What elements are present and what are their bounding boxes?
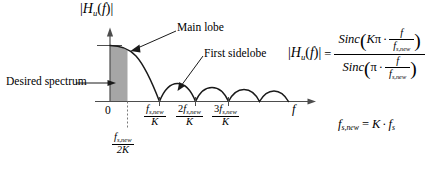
transfer-function-denominator: Sinc(π·ffs,new) bbox=[334, 54, 424, 81]
desired-spectrum-label: Desired spectrum bbox=[6, 76, 87, 88]
sampling-rate-equation: fs,new=K·fs bbox=[338, 118, 395, 132]
x-axis-label: f bbox=[292, 103, 295, 116]
x-tick-label-1-denominator: K bbox=[144, 116, 166, 128]
y-axis-label: |Hu(f)| bbox=[80, 2, 113, 17]
x-tick-label-3: 3fs,new K bbox=[212, 104, 239, 127]
main-lobe-arrowhead bbox=[131, 45, 141, 53]
x-tick-label-2: 2fs,new K bbox=[176, 104, 203, 127]
transfer-function-numerator: Sinc(Kπ·ffs,new) bbox=[334, 28, 424, 54]
y-axis-abs-close: | bbox=[111, 1, 114, 16]
cutoff-frequency-label: fs,new 2K bbox=[112, 132, 134, 155]
x-tick-label-2-denominator: K bbox=[176, 116, 203, 128]
y-axis-arrowhead bbox=[107, 28, 113, 37]
transfer-function-equals: = bbox=[324, 48, 331, 61]
transfer-function-equation: |Hu(f)| = Sinc(Kπ·ffs,new) Sinc(π·ffs,ne… bbox=[288, 28, 425, 80]
filter-magnitude-response-figure: |Hu(f)| Main lobe First sidelobe Desired… bbox=[0, 0, 435, 178]
transfer-function-lhs: |Hu(f)| bbox=[288, 46, 321, 61]
x-tick-label-3-denominator: K bbox=[212, 116, 239, 128]
main-lobe-leader-line bbox=[137, 31, 177, 49]
sampling-rate-rhs-subscript: s bbox=[392, 123, 395, 132]
first-sidelobe-leader-line bbox=[181, 56, 203, 86]
sampling-rate-dot: · bbox=[380, 117, 388, 131]
desired-spectrum-shaded-region bbox=[110, 46, 128, 102]
x-axis-arrowhead bbox=[308, 99, 317, 105]
cutoff-label-denominator: 2K bbox=[112, 144, 134, 156]
sampling-rate-lhs-subscript: s,new bbox=[341, 123, 358, 132]
x-tick-label-2-numerator: 2fs,new bbox=[176, 104, 203, 116]
first-sidelobe-label: First sidelobe bbox=[204, 48, 266, 60]
x-tick-label-1: fs,new K bbox=[144, 104, 166, 127]
main-lobe-label: Main lobe bbox=[177, 22, 224, 34]
x-tick-label-1-numerator: fs,new bbox=[144, 104, 166, 116]
transfer-function-fraction: Sinc(Kπ·ffs,new) Sinc(π·ffs,new) bbox=[334, 28, 424, 80]
x-tick-label-3-numerator: 3fs,new bbox=[212, 104, 239, 116]
sampling-rate-equals: = bbox=[359, 117, 372, 131]
cutoff-label-numerator: fs,new bbox=[112, 132, 134, 144]
y-axis-H: H bbox=[83, 1, 93, 16]
origin-label: 0 bbox=[105, 105, 111, 117]
